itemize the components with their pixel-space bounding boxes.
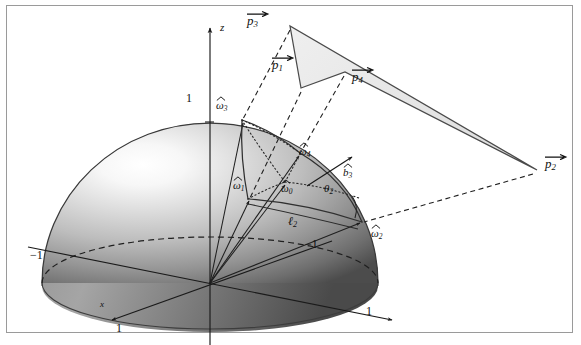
patch-outline: [290, 26, 537, 170]
tick-label-y-1: 1: [366, 305, 372, 317]
axis-label-z: z: [220, 22, 224, 33]
label-omega3-sub: 3: [224, 104, 228, 113]
label-omega4: ω 4: [299, 146, 311, 158]
tick-label-x-1: 1: [116, 322, 122, 334]
hat-accent-icon: [299, 142, 309, 147]
label-p3-sub: 3: [254, 19, 258, 29]
tick-label-z-1: 1: [186, 92, 192, 104]
projector-p2-w2: [364, 174, 533, 222]
figure-canvas: [0, 0, 581, 345]
hat-accent-icon: [343, 163, 353, 168]
projector-p4-w4: [301, 76, 344, 152]
axis-label-x: x: [100, 300, 104, 309]
tick-label-y-minus1: −1: [30, 249, 43, 261]
label-theta2-sub: 2: [329, 187, 333, 196]
vector-arrow-icon: [545, 153, 568, 160]
planar-patch: [290, 26, 537, 170]
label-theta2: θ2: [324, 183, 333, 195]
label-p4: p 4: [352, 70, 363, 85]
label-omega0-sub: 0: [289, 187, 293, 196]
label-p2-sub: 2: [552, 162, 556, 172]
hat-accent-icon: [371, 224, 381, 229]
label-omega2: ω 2: [371, 228, 383, 240]
label-p2: p 2: [545, 157, 556, 172]
label-omega0: ω 0: [281, 183, 293, 195]
label-omega1: ω 1: [233, 180, 245, 192]
hat-accent-icon: [216, 96, 226, 101]
label-omega2-sub: 2: [379, 232, 383, 241]
vector-arrow-icon: [247, 10, 270, 17]
hat-accent-icon: [281, 179, 291, 184]
hat-accent-icon: [233, 176, 243, 181]
label-omega4-sub: 4: [307, 150, 311, 159]
label-p3: p 3: [247, 14, 258, 29]
label-ell2: ℓ2: [288, 215, 297, 229]
label-ell2-sub: 2: [293, 220, 297, 229]
label-omega3: ω 3: [216, 100, 228, 112]
vector-arrow-icon: [272, 54, 295, 61]
figure-container: z x 1 1 −1 1 −1 p 3 p 1 p 4: [0, 0, 581, 345]
tick-label-x-minus1: −1: [305, 238, 318, 250]
label-p1-sub: 1: [279, 63, 283, 73]
label-omega1-sub: 1: [241, 184, 245, 193]
label-b3: b 3: [343, 167, 352, 179]
label-b3-sub: 3: [349, 171, 353, 180]
label-p4-sub: 4: [359, 75, 363, 85]
label-p1: p 1: [272, 58, 283, 73]
projector-p3-w3: [243, 30, 290, 119]
vector-arrow-icon: [352, 66, 375, 73]
